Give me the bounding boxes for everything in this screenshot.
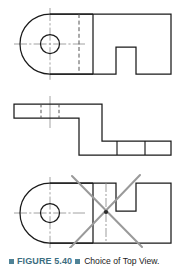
caption-square-marker-right: [75, 259, 80, 264]
figure-container: FIGURE 5.40 Choice of Top View.: [0, 0, 186, 274]
figure-number-label: FIGURE 5.40: [17, 256, 72, 266]
engineering-drawing-svg: [0, 0, 186, 248]
reject-cross-center-dot: [104, 210, 108, 214]
technical-drawing-area: [0, 0, 186, 248]
figure-caption: FIGURE 5.40 Choice of Top View.: [0, 248, 186, 274]
figure-caption-text: Choice of Top View.: [84, 256, 159, 266]
caption-square-marker-left: [9, 259, 14, 264]
